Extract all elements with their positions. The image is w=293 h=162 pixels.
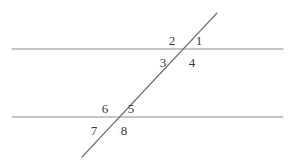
diagram-canvas <box>0 0 293 162</box>
lines-group <box>12 13 283 157</box>
angle-3-label: 3 <box>160 56 167 69</box>
angle-6-label: 6 <box>102 102 109 115</box>
angle-8-label: 8 <box>121 124 128 137</box>
geometry-diagram: 12345678 <box>0 0 293 162</box>
angle-1-label: 1 <box>196 34 203 47</box>
angle-7-label: 7 <box>91 124 98 137</box>
angle-4-label: 4 <box>189 56 196 69</box>
angle-5-label: 5 <box>128 102 135 115</box>
angle-2-label: 2 <box>169 34 176 47</box>
